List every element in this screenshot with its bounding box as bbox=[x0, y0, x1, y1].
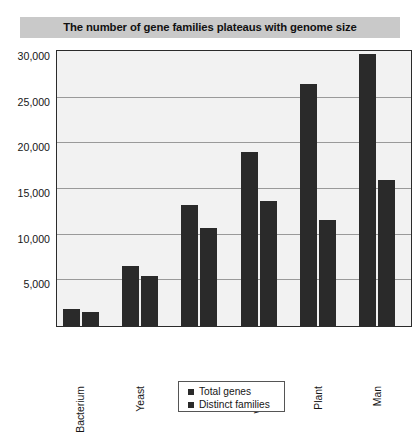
bar-bacterium-total-genes bbox=[63, 309, 80, 326]
chart-title: The number of gene families plateaus wit… bbox=[20, 17, 400, 38]
bar-worm-distinct-families bbox=[260, 201, 277, 326]
legend-swatch-distinct-families bbox=[188, 402, 194, 408]
legend-item-label: Distinct families bbox=[199, 399, 270, 411]
bar-fly-total-genes bbox=[181, 205, 198, 326]
chart-legend: Total genesDistinct families bbox=[178, 381, 285, 412]
y-axis-tick-label: 15,000 bbox=[18, 187, 50, 193]
x-axis-tick-label-yeast: Yeast bbox=[135, 386, 146, 412]
bar-plant-distinct-families bbox=[319, 220, 336, 326]
y-axis: 5,00010,00015,00020,00025,00030,000 bbox=[0, 50, 56, 327]
y-axis-tick-label: 5,000 bbox=[23, 278, 50, 284]
legend-swatch-total-genes bbox=[188, 389, 194, 395]
bar-series-group bbox=[57, 51, 411, 326]
y-axis-tick-label: 25,000 bbox=[18, 96, 50, 102]
plot-area bbox=[56, 50, 412, 327]
x-axis-tick-label-man: Man bbox=[372, 386, 383, 406]
y-axis-tick-label: 20,000 bbox=[18, 141, 50, 147]
legend-item: Total genes bbox=[188, 386, 284, 398]
legend-item-label: Total genes bbox=[199, 386, 251, 398]
bar-yeast-distinct-families bbox=[141, 276, 158, 326]
plot-wrap bbox=[56, 50, 412, 327]
bar-worm-total-genes bbox=[241, 152, 258, 326]
x-axis-tick-label-bacterium: Bacterium bbox=[75, 386, 86, 433]
x-axis-tick-label-plant: Plant bbox=[313, 386, 324, 410]
y-axis-tick-label: 10,000 bbox=[18, 233, 50, 239]
chart-figure: The number of gene families plateaus wit… bbox=[0, 0, 420, 436]
bar-bacterium-distinct-families bbox=[82, 312, 99, 326]
bar-man-distinct-families bbox=[378, 180, 395, 326]
legend-item: Distinct families bbox=[188, 399, 284, 411]
bar-plant-total-genes bbox=[300, 84, 317, 326]
chart-title-band: The number of gene families plateaus wit… bbox=[20, 17, 400, 38]
y-axis-tick-label: 30,000 bbox=[18, 50, 50, 56]
bar-fly-distinct-families bbox=[200, 228, 217, 326]
bar-yeast-total-genes bbox=[122, 266, 139, 326]
bar-man-total-genes bbox=[359, 54, 376, 326]
